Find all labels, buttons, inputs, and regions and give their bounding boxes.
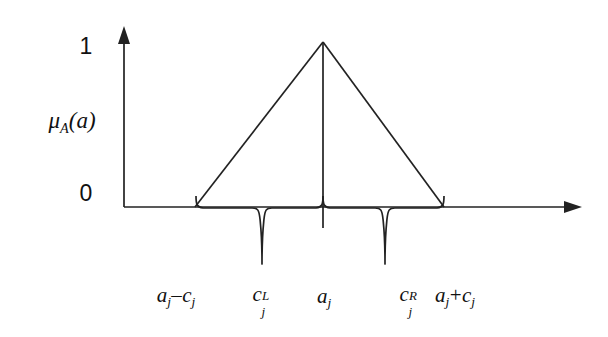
y-axis-label-mu: μ — [48, 108, 60, 133]
right-support-plus: + — [449, 283, 462, 307]
x-label-right-spread: cRj — [399, 284, 418, 305]
left-spread-subscript: j — [262, 304, 266, 317]
left-support-c: c — [182, 283, 191, 307]
y-axis-label-argument: (a) — [69, 108, 96, 133]
membership-rising-edge — [195, 42, 323, 207]
right-spread-superscript: R — [409, 289, 417, 302]
membership-falling-edge — [323, 42, 444, 207]
y-axis-label: μA(a) — [48, 109, 95, 135]
right-support-c: c — [462, 283, 471, 307]
center-a: a — [317, 284, 328, 308]
x-axis-arrow-icon — [564, 201, 582, 213]
right-support-c-sub: j — [471, 294, 475, 309]
x-label-left-support: aj–cj — [157, 285, 196, 308]
right-spread-c: c — [399, 282, 408, 306]
left-support-a: a — [157, 283, 168, 307]
left-spread-superscript: L — [262, 289, 269, 302]
y-axis-arrow-icon — [118, 26, 130, 44]
center-a-sub: j — [327, 295, 331, 310]
right-support-a: a — [435, 283, 446, 307]
x-label-right-support: aj+cj — [435, 285, 475, 308]
left-support-minus: – — [171, 283, 182, 307]
y-tick-label-one: 1 — [80, 35, 93, 58]
right-spread-subscript: j — [409, 304, 413, 317]
left-support-c-sub: j — [192, 294, 196, 309]
y-axis-label-subscript: A — [60, 120, 69, 136]
fuzzy-membership-figure: 1 0 μA(a) aj–cj cLj aj cRj aj+cj — [0, 0, 608, 337]
x-label-left-spread: cLj — [253, 284, 272, 305]
left-spread-c: c — [253, 282, 262, 306]
y-tick-label-zero: 0 — [80, 182, 93, 205]
x-label-center: aj — [317, 286, 331, 309]
